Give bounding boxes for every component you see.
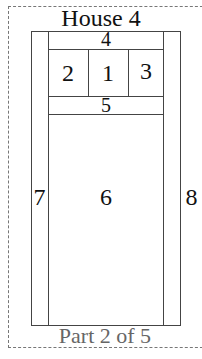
- part-indicator: Part 2 of 5: [0, 324, 202, 348]
- region-3-label: 3: [128, 48, 164, 94]
- region-4-label: 4: [48, 28, 164, 50]
- region-8-label: 8: [181, 115, 202, 280]
- region-6-label: 6: [48, 115, 164, 280]
- region-1-label: 1: [88, 50, 128, 96]
- region-2-label: 2: [48, 50, 88, 96]
- region-5-label: 5: [48, 96, 164, 114]
- region-7-label: 7: [31, 115, 48, 280]
